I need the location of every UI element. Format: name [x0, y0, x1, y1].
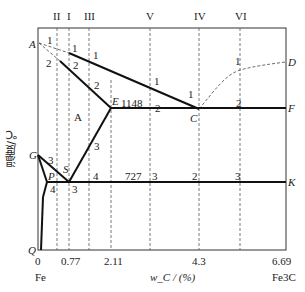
seg-num: 4 [50, 184, 56, 195]
alloy-label-II: II [53, 10, 60, 22]
x-tick: 6.69 [272, 256, 291, 267]
seg-num: 2 [236, 98, 242, 109]
seg-num: 3 [235, 171, 241, 182]
seg-num: 1 [235, 56, 241, 67]
x-tick: 0 [35, 256, 41, 267]
x-tick: 0.77 [61, 256, 80, 267]
point-A: A [29, 39, 36, 50]
phase-diagram [0, 0, 305, 292]
seg-num: 1 [72, 43, 78, 54]
point-D: D [288, 57, 296, 68]
seg-num: 2 [73, 60, 79, 71]
alloy-label-VI: VI [235, 10, 247, 22]
x-end-fe3c: Fe3C [272, 272, 296, 283]
alloy-label-V: V [146, 10, 154, 22]
seg-num: 2 [46, 58, 52, 69]
alloy-label-IV: IV [194, 10, 206, 22]
seg-num: 2 [94, 80, 100, 91]
alloy-label-I: I [67, 10, 71, 22]
y-axis-label: 温度/℃ [4, 128, 20, 167]
alloy-label-III: III [84, 10, 95, 22]
seg-num: 1 [47, 35, 53, 46]
x-end-fe: Fe [35, 272, 46, 283]
point-F: F [288, 103, 295, 114]
x-tick: 4.3 [192, 256, 206, 267]
seg-num: 3 [48, 155, 54, 166]
point-G: G [29, 150, 37, 161]
seg-num: 3 [94, 141, 100, 152]
seg-num: 4 [93, 171, 99, 182]
seg-num: 1 [154, 76, 160, 87]
point-S: S [63, 164, 69, 175]
seg-num: 2 [155, 103, 161, 114]
seg-num: 2 [192, 171, 198, 182]
region-austenite: A [74, 112, 82, 123]
point-C: C [190, 113, 197, 124]
seg-num: 1 [93, 50, 99, 61]
eutectic-temp: 1148 [121, 98, 143, 109]
point-K: K [288, 177, 295, 188]
seg-num: 1 [188, 89, 194, 100]
x-axis-label: w_C / (%) [150, 272, 195, 283]
seg-num: 3 [72, 184, 78, 195]
eutectoid-temp: 727 [125, 171, 142, 182]
seg-num: 3 [152, 171, 158, 182]
x-tick: 2.11 [104, 256, 123, 267]
point-E: E [112, 96, 119, 107]
point-P: P [48, 171, 55, 182]
